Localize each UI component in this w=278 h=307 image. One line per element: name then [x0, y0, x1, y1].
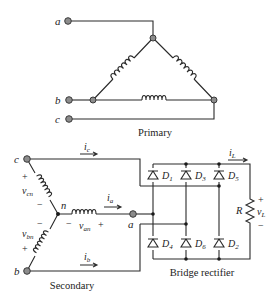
- secondary-terminal-b: [24, 268, 31, 275]
- junction-bot-2: [184, 257, 188, 261]
- secondary-a-coil-icon: [72, 210, 96, 215]
- ia-label: ia: [107, 192, 114, 205]
- d1-label: D1: [161, 170, 173, 183]
- secondary-wye: n c a b + vcn − − vbn + − van + ic ia ib…: [14, 141, 140, 291]
- primary-terminal-a: [65, 18, 72, 25]
- secondary-terminal-a: [130, 211, 137, 218]
- van-label: van: [79, 220, 91, 233]
- junction-a: [151, 212, 155, 216]
- vl-minus: −: [258, 220, 264, 231]
- primary-wire-c: [69, 100, 214, 119]
- neutral-label: n: [61, 200, 66, 211]
- d6-label: D6: [194, 238, 206, 251]
- primary-wire-a: [68, 21, 153, 38]
- primary-label-b: b: [55, 94, 61, 106]
- bridge-rectifier: D1 D3 D5 D4 D6 D2 R + vL − iL Bridge rec…: [140, 147, 265, 278]
- primary-right-node: [211, 97, 217, 103]
- vcn-plus: +: [22, 171, 28, 182]
- d2-label: D2: [227, 238, 239, 251]
- secondary-label-c: c: [14, 153, 19, 165]
- primary-terminal-c: [66, 116, 73, 123]
- ia-arrow-icon: [104, 205, 121, 209]
- primary-label-a: a: [55, 15, 61, 27]
- primary-bottom-coil-icon: [142, 96, 166, 101]
- neutral-node: [56, 212, 60, 216]
- secondary-c-coil-icon: [37, 174, 53, 197]
- secondary-terminal-c: [24, 156, 31, 163]
- vbn-label: vbn: [22, 228, 34, 241]
- primary-label-c: c: [55, 113, 60, 125]
- van-minus: −: [66, 218, 72, 229]
- il-label: iL: [229, 147, 236, 160]
- resistor-label: R: [235, 205, 243, 216]
- junction-top-3: [217, 162, 221, 166]
- van-plus: +: [98, 219, 104, 230]
- vbn-minus: −: [37, 218, 43, 229]
- ic-label: ic: [84, 141, 91, 154]
- resistor-icon: [246, 194, 254, 227]
- secondary-label-a: a: [128, 218, 134, 230]
- primary-left-coil-icon: [110, 55, 134, 79]
- primary-left-lead: [93, 38, 153, 100]
- junction-b: [184, 222, 188, 226]
- diode-d5-icon: [213, 168, 225, 182]
- vl-label: vL: [257, 206, 265, 219]
- diode-d6-icon: [180, 236, 192, 250]
- d3-label: D3: [194, 170, 206, 183]
- primary-terminal-b: [66, 97, 73, 104]
- vcn-label: vcn: [22, 185, 34, 198]
- secondary-b-coil-icon: [33, 230, 49, 253]
- d4-label: D4: [161, 238, 173, 251]
- junction-bot-3: [217, 257, 221, 261]
- three-phase-rectifier-diagram: a b c Primary n c a b: [0, 0, 278, 307]
- junction-top-2: [184, 162, 188, 166]
- secondary-caption: Secondary: [50, 280, 95, 291]
- secondary-label-b: b: [14, 265, 20, 277]
- primary-right-lead: [153, 38, 214, 100]
- diode-d1-icon: [147, 168, 159, 182]
- vl-plus: +: [258, 194, 264, 205]
- vbn-plus: +: [22, 243, 28, 254]
- primary-left-node: [90, 97, 96, 103]
- diode-d4-icon: [147, 236, 159, 250]
- primary-apex-node: [150, 35, 156, 41]
- primary-caption: Primary: [138, 127, 173, 138]
- diode-d2-icon: [213, 236, 225, 250]
- diode-d3-icon: [180, 168, 192, 182]
- junction-c: [217, 184, 221, 188]
- d5-label: D5: [227, 170, 239, 183]
- rectifier-caption: Bridge rectifier: [170, 267, 235, 278]
- primary-right-coil-icon: [173, 55, 197, 79]
- vcn-minus: −: [37, 199, 43, 210]
- primary-delta: a b c Primary: [55, 15, 217, 138]
- ib-label: ib: [84, 251, 91, 264]
